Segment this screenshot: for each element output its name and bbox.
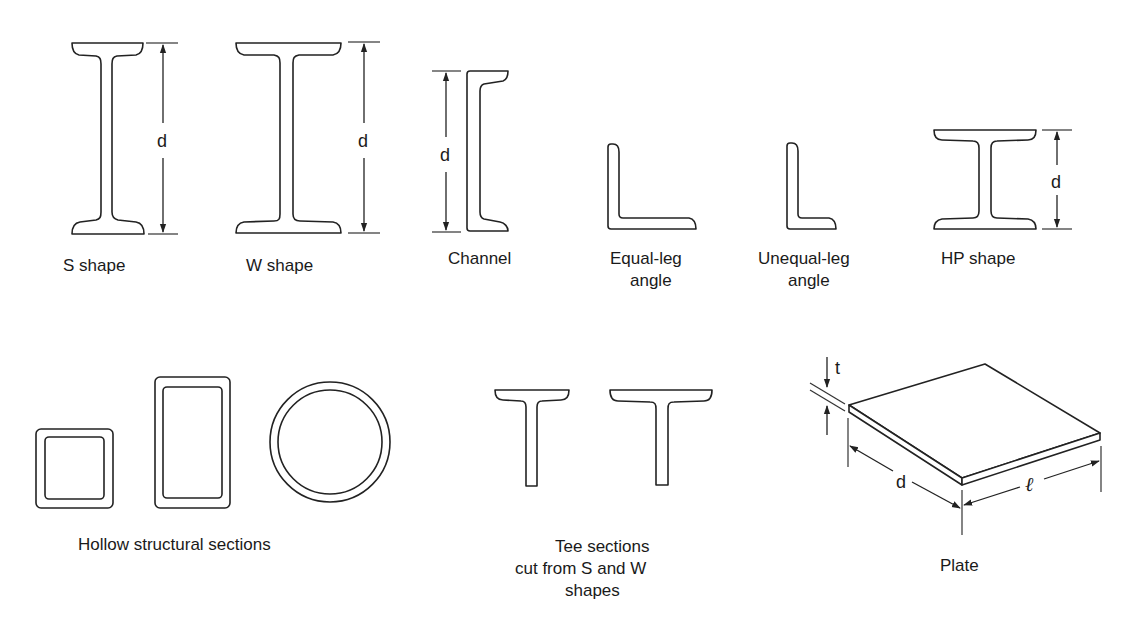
equal-leg-angle-figure: Equal-leg angle: [608, 144, 696, 290]
tee-sections-label-line-3: shapes: [565, 581, 620, 600]
equal-leg-angle-label-line-1: Equal-leg: [610, 249, 682, 268]
s-shape-label: S shape: [63, 256, 125, 275]
plate-label: Plate: [940, 556, 979, 575]
plate-dimension-t: t: [835, 358, 840, 378]
square-hss-inner: [45, 437, 104, 499]
hollow-structural-sections-label: Hollow structural sections: [78, 535, 271, 554]
plate-dimension-length: ℓ: [1025, 473, 1034, 495]
rectangular-hss-inner: [163, 387, 222, 498]
hollow-structural-sections-figure: Hollow structural sections: [36, 377, 390, 554]
tee-sections-label-line-1: Tee sections: [555, 537, 650, 556]
channel-figure: d Channel: [432, 71, 511, 268]
tee-from-s-outline: [495, 390, 569, 486]
hp-shape-label: HP shape: [941, 249, 1015, 268]
plate-figure: t d ℓ Plate: [810, 357, 1101, 575]
channel-dimension-d: d: [440, 145, 450, 165]
w-shape-dimension-d: d: [358, 131, 368, 151]
unequal-leg-angle-label-line-1: Unequal-leg: [758, 249, 850, 268]
s-shape-figure: d S shape: [63, 43, 178, 275]
hp-shape-figure: d HP shape: [934, 130, 1072, 268]
w-shape-outline: [236, 43, 341, 233]
tee-sections-label-line-2: cut from S and W: [515, 559, 646, 578]
hp-shape-outline: [934, 130, 1036, 229]
unequal-leg-angle-outline: [787, 143, 836, 229]
structural-shapes-diagram: d S shape d W shape d Channel Equal-leg …: [0, 0, 1133, 632]
unequal-leg-angle-label-line-2: angle: [788, 271, 830, 290]
tee-from-w-outline: [610, 390, 712, 485]
plate-dimension-d: d: [896, 472, 906, 492]
tee-sections-figure: Tee sections cut from S and W shapes: [495, 390, 712, 600]
channel-outline: [467, 71, 508, 231]
unequal-leg-angle-figure: Unequal-leg angle: [758, 143, 850, 290]
s-shape-dimension-d: d: [157, 131, 167, 151]
channel-label: Channel: [448, 249, 511, 268]
w-shape-label: W shape: [246, 256, 313, 275]
plate-top-face: [849, 364, 1100, 478]
round-hss-inner: [278, 390, 382, 494]
equal-leg-angle-label-line-2: angle: [630, 271, 672, 290]
w-shape-figure: d W shape: [236, 42, 380, 275]
hp-shape-dimension-d: d: [1051, 172, 1061, 192]
equal-leg-angle-outline: [608, 144, 696, 229]
s-shape-outline: [72, 43, 144, 234]
